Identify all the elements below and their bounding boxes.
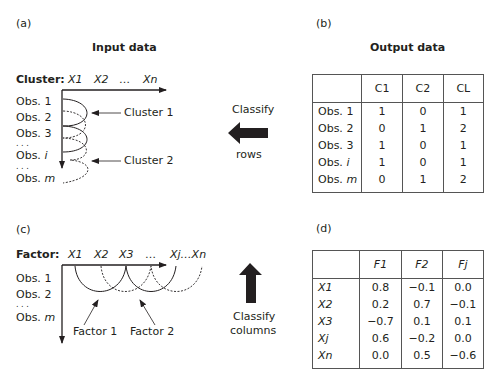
table-row: Obs. 1 1 0 1 (313, 103, 484, 121)
factor-2-callout: Factor 2 (130, 325, 174, 338)
table-row: Xn 0.0 0.5 −0.6 (313, 347, 484, 369)
table-header-c1: C1 (361, 75, 402, 103)
table-header-fj: Fj (442, 251, 483, 279)
table-header-f2: F2 (401, 251, 442, 279)
panel-b-label: (b) (316, 17, 332, 30)
table-header-row: F1 F2 Fj (313, 251, 484, 279)
output-data-table: C1 C2 CL Obs. 1 1 0 1 Obs. 2 0 1 2 Obs. … (312, 74, 484, 193)
panel-a-axis-label: Cluster: (16, 73, 65, 86)
table-row: X3 −0.7 0.1 0.1 (313, 313, 484, 330)
panel-c-row: Obs. 1 (16, 272, 51, 285)
cluster-2-callout: Cluster 2 (124, 154, 174, 167)
factor-2-curve (101, 266, 202, 292)
table-header-row: C1 C2 CL (313, 75, 484, 103)
factor-1-pointer (84, 300, 98, 325)
panel-c-col-x1: X1 (68, 248, 83, 261)
table-row: Obs. m 0 1 2 (313, 171, 484, 193)
panel-a-row: Obs. i (16, 149, 47, 162)
table-header-cl: CL (443, 75, 483, 103)
table-row: X2 0.2 0.7 −0.1 (313, 296, 484, 313)
classify-columns-label-1: Classify (233, 310, 275, 323)
panel-a-col-ellipsis: … (119, 73, 130, 86)
panel-a-label: (a) (16, 17, 31, 30)
panel-c-row-ellipsis: . . . (16, 300, 29, 309)
panel-a-row: Obs. 1 (16, 95, 51, 108)
panel-c-col-xj-xn: Xj…Xn (170, 248, 206, 261)
classify-rows-arrow (228, 122, 268, 144)
table-row: Obs. i 1 0 1 (313, 154, 484, 171)
panel-a-row: Obs. m (16, 172, 55, 185)
factor-loadings-table: F1 F2 Fj X1 0.8 −0.1 0.0 X2 0.2 0.7 −0.1… (312, 250, 484, 369)
table-row: Xj 0.6 −0.2 0.0 (313, 330, 484, 347)
table-header-blank (313, 75, 362, 103)
panel-a-row-ellipsis: . . . (16, 162, 29, 171)
panel-c-axis-label: Factor: (16, 248, 59, 261)
table-row: Obs. 2 0 1 2 (313, 120, 484, 137)
cluster-2-curve (63, 111, 88, 183)
factor-1-callout: Factor 1 (73, 325, 117, 338)
panel-c-row: Obs. m (16, 311, 55, 324)
classify-rows-label-1: Classify (232, 103, 274, 116)
table-header-f1: F1 (360, 251, 402, 279)
cluster-1-callout: Cluster 1 (124, 106, 174, 119)
table-row: Obs. 3 1 0 1 (313, 137, 484, 154)
panel-c-col-x2: X2 (94, 248, 109, 261)
panel-c-label: (c) (16, 223, 31, 236)
panel-a-col-x1: X1 (68, 73, 83, 86)
panel-a-row: Obs. 2 (16, 111, 51, 124)
table-row: X1 0.8 −0.1 0.0 (313, 279, 484, 297)
panel-d-label: (d) (316, 222, 332, 235)
panel-c-col-ellipsis: … (145, 248, 156, 261)
factor-1-curve (75, 266, 176, 292)
table-header-c2: C2 (403, 75, 443, 103)
table-header-blank (313, 251, 360, 279)
factor-2-pointer (140, 300, 155, 325)
classify-columns-label-2: columns (230, 324, 276, 337)
panel-a-row-ellipsis: . . . (16, 139, 29, 148)
panel-c-col-x3: X3 (119, 248, 134, 261)
classify-rows-label-2: rows (236, 148, 262, 161)
panel-a-title: Input data (92, 41, 157, 54)
panel-a-col-x2: X2 (94, 73, 109, 86)
classify-columns-arrow (239, 263, 262, 303)
panel-b-title: Output data (370, 41, 445, 54)
panel-a-col-xn: Xn (143, 73, 158, 86)
